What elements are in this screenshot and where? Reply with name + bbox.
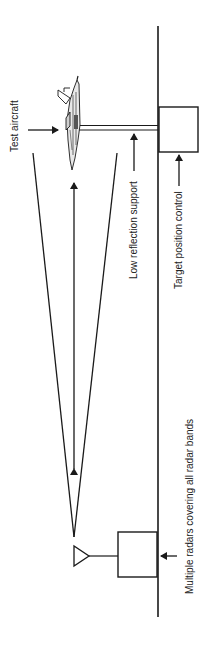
label-test-aircraft: Test aircraft [9,100,20,152]
radar-beam-cone [33,153,117,537]
test-aircraft [58,76,80,170]
low-reflection-support-rod [78,126,158,131]
label-target-position-control: Target position control [173,191,184,289]
radar-antenna [74,546,118,566]
radar-box [118,532,157,577]
radar-test-range-diagram: Test aircraft Low reflection support Tar… [0,0,209,653]
target-position-control-box [159,107,198,152]
label-radars: Multiple radars covering all radar bands [184,419,195,594]
label-low-reflection-support: Low reflection support [128,181,139,279]
